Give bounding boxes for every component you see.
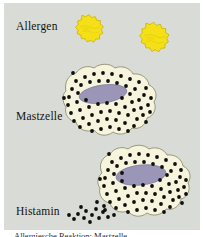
illustration-panel: Allergen Mastzelle Histamin <box>4 3 200 230</box>
mast-cell-intact <box>62 64 156 135</box>
label-mastzelle: Mastzelle <box>16 110 63 122</box>
histamine-granules <box>67 200 110 224</box>
allergen-particle-1 <box>75 15 103 43</box>
allergy-mast-cell-figure: Allergen Mastzelle Histamin Allergiesche… <box>0 0 203 237</box>
mast-cell-degranulating <box>98 145 190 217</box>
label-histamin: Histamin <box>16 205 60 217</box>
label-allergen: Allergen <box>16 20 58 32</box>
allergen-particle-2 <box>139 22 169 52</box>
figure-caption: Allergiesche Reaktion: Mastzelle <box>14 231 194 237</box>
